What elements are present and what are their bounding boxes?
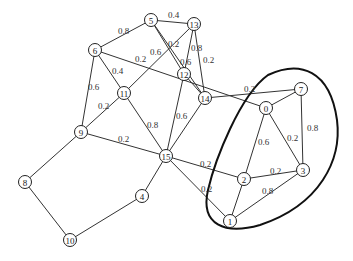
node-1: 1 xyxy=(224,215,237,228)
edge-weight: 0.2 xyxy=(200,159,211,169)
edge-11-9 xyxy=(81,93,124,132)
svg-text:4: 4 xyxy=(140,192,145,202)
node-13: 13 xyxy=(188,18,201,31)
edge-weight: 0.6 xyxy=(258,137,270,147)
edge-weight: 0.2 xyxy=(270,166,281,176)
edge-weight: 0.2 xyxy=(135,54,146,64)
edge-weight: 0.6 xyxy=(150,47,162,57)
edge-10-4 xyxy=(70,196,142,240)
edge-weight: 0.8 xyxy=(307,123,319,133)
edge-weight: 0.2 xyxy=(168,39,179,49)
graph-diagram: 0.40.80.20.60.80.20.20.40.60.60.60.20.20… xyxy=(0,0,353,261)
edge-7-3 xyxy=(301,89,303,170)
edge-9-8 xyxy=(25,132,81,182)
edge-weight: 0.8 xyxy=(118,26,130,36)
node-5: 5 xyxy=(145,14,158,27)
svg-text:6: 6 xyxy=(93,46,98,56)
cluster-outline xyxy=(207,69,338,229)
svg-text:14: 14 xyxy=(201,94,211,104)
node-10: 10 xyxy=(64,234,77,247)
edge-weight: 0.8 xyxy=(262,186,274,196)
edge-weight: 0.6 xyxy=(88,82,100,92)
edge-weight: 0.2 xyxy=(118,134,129,144)
svg-text:10: 10 xyxy=(66,236,76,246)
node-3: 3 xyxy=(297,164,310,177)
svg-text:12: 12 xyxy=(180,70,189,80)
node-12: 12 xyxy=(178,68,191,81)
node-6: 6 xyxy=(89,44,102,57)
node-8: 8 xyxy=(19,176,32,189)
svg-text:3: 3 xyxy=(301,166,306,176)
edge-weight: 0.4 xyxy=(112,66,124,76)
edge-weight: 0.6 xyxy=(180,57,192,67)
node-9: 9 xyxy=(75,126,88,139)
edge-weight: 0.2 xyxy=(287,133,298,143)
node-11: 11 xyxy=(118,87,131,100)
node-2: 2 xyxy=(238,173,251,186)
node-4: 4 xyxy=(136,190,149,203)
edge-14-15 xyxy=(166,98,205,156)
edge-weight: 0.2 xyxy=(203,55,214,65)
edge-weight: 0.4 xyxy=(168,10,180,20)
svg-text:8: 8 xyxy=(23,178,28,188)
node-14: 14 xyxy=(199,92,212,105)
edge-11-15 xyxy=(124,93,166,156)
edges xyxy=(25,20,303,240)
edge-weight: 0.6 xyxy=(176,111,188,121)
nodes: 0123456789101112131415 xyxy=(19,14,310,247)
svg-text:7: 7 xyxy=(299,85,304,95)
node-0: 0 xyxy=(260,102,273,115)
node-7: 7 xyxy=(295,83,308,96)
svg-text:0: 0 xyxy=(264,104,269,114)
svg-text:5: 5 xyxy=(149,16,154,26)
svg-text:15: 15 xyxy=(162,152,172,162)
edge-weight: 0.2 xyxy=(244,84,255,94)
edge-8-10 xyxy=(25,182,70,240)
node-15: 15 xyxy=(160,150,173,163)
edge-weight: 0.8 xyxy=(147,120,159,130)
svg-text:11: 11 xyxy=(120,89,129,99)
edge-weight: 0.2 xyxy=(201,184,212,194)
svg-text:2: 2 xyxy=(242,175,247,185)
edge-weight: 0.2 xyxy=(98,101,109,111)
svg-text:13: 13 xyxy=(190,20,200,30)
svg-text:1: 1 xyxy=(228,217,233,227)
svg-text:9: 9 xyxy=(79,128,84,138)
edge-weight: 0.8 xyxy=(191,43,203,53)
